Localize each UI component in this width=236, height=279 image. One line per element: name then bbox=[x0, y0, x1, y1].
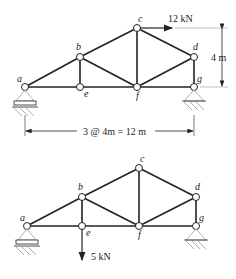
node-label-f: f bbox=[136, 90, 140, 101]
truss-top bbox=[25, 28, 194, 87]
node-label-b: b bbox=[76, 41, 81, 52]
node-label-b: b bbox=[78, 181, 83, 192]
roller-support-icon bbox=[12, 90, 38, 116]
span-label: 3 @ 4m = 12 m bbox=[83, 126, 146, 137]
height-label: 4 m bbox=[211, 52, 227, 63]
load-label: 12 kN bbox=[168, 13, 193, 24]
node-label-f: f bbox=[138, 229, 142, 240]
load-label: 5 kN bbox=[91, 251, 111, 262]
node-label-a: a bbox=[17, 73, 22, 84]
truss-diagrams: 12 kN 4 m 3 @ 4m = 12 m a b c d e f g bbox=[0, 0, 236, 279]
truss-bottom-nodes bbox=[24, 165, 200, 230]
node-label-d: d bbox=[193, 41, 199, 52]
node-label-a: a bbox=[20, 212, 25, 223]
node-label-g: g bbox=[199, 212, 204, 223]
node-label-e: e bbox=[84, 88, 89, 99]
roller-support-icon bbox=[14, 229, 40, 255]
truss-top-nodes bbox=[22, 25, 198, 91]
node-label-c: c bbox=[138, 13, 143, 24]
node-label-g: g bbox=[197, 73, 202, 84]
node-label-d: d bbox=[195, 181, 201, 192]
pin-support-icon bbox=[182, 90, 206, 110]
pin-support-icon bbox=[184, 229, 208, 249]
node-label-e: e bbox=[86, 227, 91, 238]
node-label-c: c bbox=[140, 153, 145, 164]
truss-bottom bbox=[27, 168, 196, 226]
